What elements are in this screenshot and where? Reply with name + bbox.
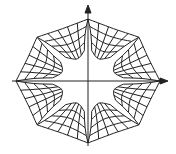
grid-ring-arc: [37, 19, 88, 37]
grid-ring-arc: [91, 34, 125, 46]
grid-radial-line: [100, 103, 118, 132]
grid-ring-arc: [90, 121, 132, 136]
grid-ring-arc: [129, 84, 143, 113]
grid-ring-arc: [91, 116, 125, 128]
grid-ring-arc: [134, 82, 151, 118]
octagonal-grid-diagram: [0, 0, 176, 154]
y-axis-arrow-icon: [85, 5, 91, 13]
grid-ring-arc: [44, 26, 86, 41]
grid-ring-arc: [52, 34, 86, 46]
grid-radial-line: [58, 30, 76, 59]
grid-ring-arc: [34, 50, 48, 79]
grid-ring-arc: [129, 50, 143, 79]
grid-ring-arc: [88, 125, 139, 143]
grid-ring-arc: [25, 82, 42, 118]
grid-radial-line: [29, 92, 63, 107]
grid-ring-arc: [90, 26, 132, 41]
grid-radial-line: [114, 55, 148, 70]
x-axis-arrow-icon: [160, 78, 168, 84]
grid-ring-arc: [34, 84, 48, 113]
grid-ring-arc: [16, 37, 37, 81]
grid-ring-arc: [52, 116, 86, 128]
grid-radial-line: [114, 92, 148, 107]
grid-radial-line: [29, 55, 63, 70]
grid-ring-arc: [139, 81, 160, 125]
grid-ring-arc: [134, 43, 151, 79]
grid-radial-line: [58, 103, 76, 132]
grid-radial-line: [84, 111, 88, 142]
grid-ring-arc: [88, 19, 139, 37]
grid-radial-line: [88, 19, 92, 50]
grid-ring-arc: [25, 43, 42, 79]
grid-radial-line: [100, 30, 118, 59]
grid-ring-arc: [16, 81, 37, 125]
grid-radial-line: [84, 19, 88, 50]
grid-ring-arc: [139, 37, 160, 81]
grid-radial-line: [88, 111, 92, 142]
grid-ring-arc: [44, 121, 86, 136]
grid-ring-arc: [37, 125, 88, 143]
